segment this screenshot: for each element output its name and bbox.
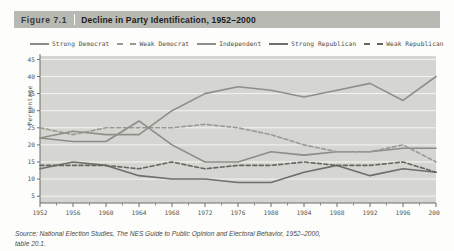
legend-label: Weak Democrat [139, 40, 189, 47]
source-prefix: Source: National Election Studies, [15, 230, 117, 237]
legend-item-independent: Independent [197, 40, 261, 47]
y-axis-tick-label: 40 [28, 73, 36, 80]
legend-item-strong-republican: Strong Republican [269, 40, 356, 47]
legend-swatch-icon [117, 43, 136, 45]
y-axis-tick-label: 20 [28, 141, 36, 148]
y-axis-tick-label: 5 [31, 192, 35, 199]
figure-number: Figure 7.1 [14, 15, 67, 25]
y-axis-tick-label: 10 [28, 175, 36, 182]
legend-item-weak-republican: Weak Republican [364, 40, 443, 47]
x-axis-tick-label: 1952 [33, 209, 48, 216]
x-axis-tick-label: 1988 [330, 209, 345, 216]
legend-label: Strong Republican [291, 40, 356, 47]
source-table-ref: table 20.1. [15, 240, 46, 247]
x-axis-tick-label: 1964 [132, 209, 147, 216]
legend-label: Strong Democrat [52, 40, 109, 47]
legend-label: Independent [219, 40, 261, 47]
x-axis-tick-label: 2000 [429, 209, 440, 216]
source-italic-title: The NES Guide to Public Opinion and Elec… [117, 230, 321, 237]
x-axis-tick-label: 1968 [165, 209, 180, 216]
x-axis-tick-label: 1992 [363, 209, 378, 216]
y-axis-tick-label: 15 [28, 158, 36, 165]
title-separator [74, 14, 75, 25]
y-axis-tick-label: 35 [28, 90, 36, 97]
figure-title: Decline in Party Identification, 1952–20… [81, 15, 256, 25]
x-axis-tick-label: 1980 [264, 209, 279, 216]
x-axis-tick-label: 1976 [231, 209, 246, 216]
line-chart-svg: 5101520253035404519521956196019641968197… [14, 50, 440, 225]
legend-swatch-icon [269, 43, 288, 45]
legend-swatch-icon [197, 43, 216, 45]
legend-label: Weak Republican [386, 40, 443, 47]
y-axis-tick-label: 30 [28, 107, 36, 114]
legend-item-weak-democrat: Weak Democrat [117, 40, 189, 47]
x-axis-tick-label: 1960 [99, 209, 114, 216]
chart-legend: Strong DemocratWeak DemocratIndependentS… [30, 38, 440, 49]
chart-area: Percentage 51015202530354045195219561960… [14, 50, 440, 225]
figure-title-bar: Figure 7.1 Decline in Party Identificati… [14, 11, 440, 28]
source-note: Source: National Election Studies, The N… [15, 229, 445, 248]
y-axis-tick-label: 45 [28, 56, 36, 63]
legend-item-strong-democrat: Strong Democrat [30, 40, 109, 47]
x-axis-tick-label: 1956 [66, 209, 81, 216]
x-axis-tick-label: 1996 [396, 209, 411, 216]
legend-swatch-icon [30, 43, 49, 45]
x-axis-tick-label: 1972 [198, 209, 213, 216]
y-axis-tick-label: 25 [28, 124, 36, 131]
legend-swatch-icon [364, 43, 383, 45]
figure-container: Figure 7.1 Decline in Party Identificati… [0, 0, 454, 251]
x-axis-tick-label: 1984 [297, 209, 312, 216]
